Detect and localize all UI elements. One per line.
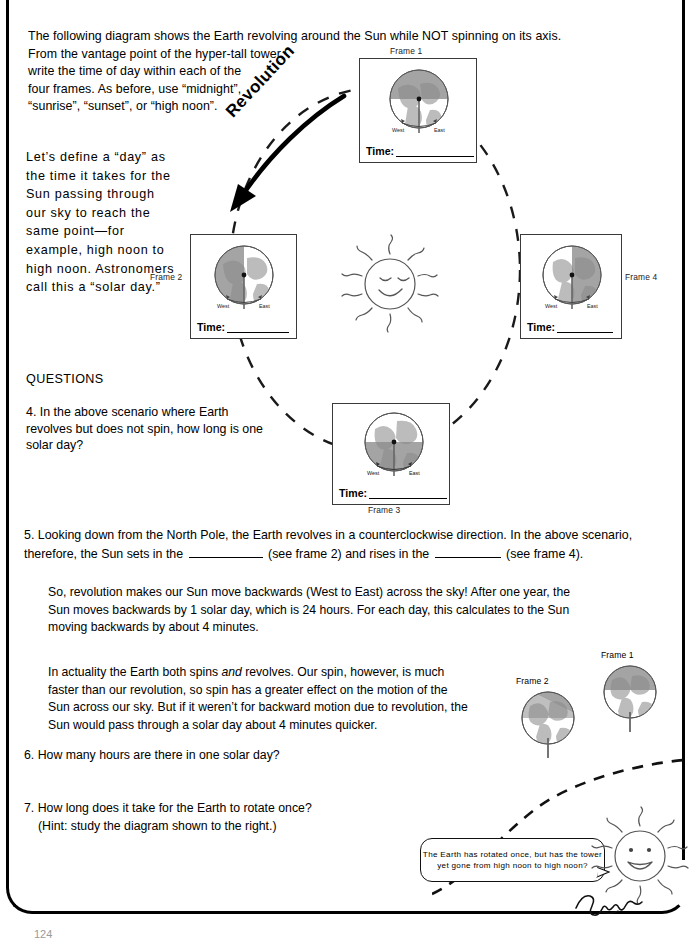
time-label-4: Time: [527,321,555,333]
frame-3-label: Frame 3 [368,505,400,515]
time-answer-blank-4[interactable] [557,321,613,333]
question-5-blank-2[interactable] [435,545,501,558]
frame-4-label: Frame 4 [625,272,657,282]
rotation-question-bubble: The Earth has rotated once, but has the … [420,838,605,882]
question-7: 7. How long does it take for the Earth t… [24,800,454,835]
bottom-frame-2-label: Frame 2 [516,676,549,686]
paragraph-actuality-emphasis: and [221,665,241,679]
question-6: 6. How many hours are there in one solar… [24,748,280,762]
question-5-part-2: (see frame 2) and rises in the [268,547,429,561]
question-5-part-3: (see frame 4). [506,547,583,561]
compass-west-3: West [367,470,380,476]
paragraph-actuality-a: In actuality the Earth both spins [48,665,221,679]
time-answer-blank-2[interactable] [227,321,289,333]
page-number: 124 [34,928,52,940]
time-label-1: Time: [366,145,394,157]
worksheet-page: The following diagram shows the Earth re… [0,0,689,941]
time-label-2: Time: [197,321,225,333]
smiling-sun-icon [338,232,442,336]
frame-4-box: West East Time: [520,234,622,339]
earth-globe-bottom-frame-1 [598,662,664,738]
frame-1-box: West East Time: [359,58,477,163]
question-7-hint: (Hint: study the diagram shown to the ri… [24,818,454,836]
time-label-3: Time: [339,487,367,499]
frame-3-time-row: Time: [339,487,447,499]
paragraph-actuality: In actuality the Earth both spins and re… [48,664,468,734]
intro-line-1: The following diagram shows the Earth re… [28,29,561,43]
frame-1-label: Frame 1 [390,46,422,56]
earth-globe-bottom-frame-2 [516,688,582,764]
frame-2-time-row: Time: [197,321,289,333]
earth-globe-frame-3: West East [355,409,433,481]
frame-2-label: Frame 2 [150,272,182,282]
compass-west-2: West [217,303,230,309]
frame-1-time-row: Time: [366,145,474,157]
question-4: 4. In the above scenario where Earth rev… [26,404,276,454]
bottom-frame-1-label: Frame 1 [601,650,634,660]
earth-globe-frame-2: West East [205,242,283,314]
frame-3-box: West East Time: [332,403,450,505]
compass-east-2: East [259,303,270,309]
compass-east-3: East [409,470,420,476]
frame-4-time-row: Time: [527,321,613,333]
question-5: 5. Looking down from the North Pole, the… [24,527,660,563]
compass-east-4: East [587,303,598,309]
earth-globe-frame-1: West East [380,66,458,138]
compass-west-1: West [392,127,405,133]
compass-east-1: East [434,127,445,133]
time-answer-blank-1[interactable] [396,145,474,157]
question-5-blank-1[interactable] [189,545,263,558]
paragraph-revolution: So, revolution makes our Sun move backwa… [48,584,590,637]
time-answer-blank-3[interactable] [369,487,447,499]
frame-2-box: West East Time: [190,234,297,339]
earth-globe-frame-4: West East [533,242,611,314]
signature-mark [572,886,650,920]
questions-heading: QUESTIONS [26,372,104,386]
compass-west-4: West [545,303,558,309]
question-7-line-1: 7. How long does it take for the Earth t… [24,801,312,815]
